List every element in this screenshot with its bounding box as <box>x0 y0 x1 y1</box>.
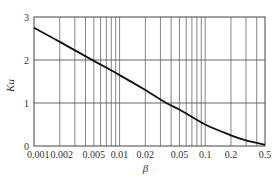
x-tick-label: 0.001 <box>27 149 50 160</box>
y-tick-label: 3 <box>24 12 29 23</box>
x-axis-ticks: 0.0010.0020.0050.010.020.050.10.20.5 <box>27 149 271 160</box>
x-tick-label: 0.5 <box>259 149 272 160</box>
y-tick-label: 2 <box>24 55 29 66</box>
x-tick-label: 0.05 <box>171 149 189 160</box>
x-tick-label: 0.1 <box>199 149 212 160</box>
x-tick-label: 0.01 <box>111 149 129 160</box>
plot-frame <box>34 17 265 146</box>
x-axis-label: β <box>142 162 149 174</box>
y-tick-label: 1 <box>24 98 29 109</box>
ku-curve <box>34 28 265 145</box>
x-tick-label: 0.005 <box>83 149 106 160</box>
y-axis-label: Ku <box>4 79 16 93</box>
y-axis-ticks: 0123 <box>24 12 29 152</box>
y-tick-label: 0 <box>24 141 29 152</box>
x-tick-label: 0.2 <box>225 149 238 160</box>
x-tick-label: 0.002 <box>51 149 74 160</box>
grid-lines <box>34 17 265 146</box>
ku-vs-beta-chart: 0.0010.0020.0050.010.020.050.10.20.5 012… <box>0 0 278 182</box>
x-tick-label: 0.02 <box>137 149 155 160</box>
